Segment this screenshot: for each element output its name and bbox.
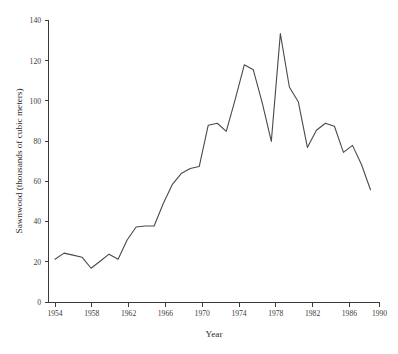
- y-tick-label: 20: [33, 258, 41, 267]
- figure-container: 140 120 100 80 60 40 20 0 1954 1958 1962…: [0, 0, 398, 354]
- x-tick-label: 1978: [268, 309, 283, 318]
- y-tick-label: 140: [30, 16, 42, 25]
- y-tick-label: 40: [33, 217, 41, 226]
- caption-strip: [0, 345, 398, 354]
- x-tick-label: 1974: [231, 309, 246, 318]
- x-tick-label: 1982: [305, 309, 320, 318]
- y-tick-label: 80: [33, 137, 41, 146]
- y-tick-label: 60: [33, 177, 41, 186]
- y-tick-label: 0: [37, 298, 41, 307]
- x-axis-title: Year: [206, 329, 223, 339]
- y-tick-label: 100: [30, 97, 42, 106]
- x-tick-label: 1970: [195, 309, 210, 318]
- y-axis-title: Sawnwood (thousands of cubic meters): [14, 89, 24, 234]
- y-tick-marks: [45, 21, 49, 303]
- x-tick-label: 1954: [47, 309, 62, 318]
- data-series-line: [55, 34, 370, 269]
- x-tick-label: 1958: [84, 309, 99, 318]
- line-chart: 140 120 100 80 60 40 20 0 1954 1958 1962…: [0, 0, 398, 354]
- x-tick-label: 1966: [158, 309, 173, 318]
- x-tick-label: 1986: [342, 309, 357, 318]
- y-tick-labels: 140 120 100 80 60 40 20 0: [30, 16, 42, 307]
- x-tick-label: 1990: [372, 309, 387, 318]
- x-tick-marks: [55, 303, 380, 307]
- x-tick-labels: 1954 1958 1962 1966 1970 1974 1978 1982 …: [47, 309, 387, 318]
- y-tick-label: 120: [30, 57, 42, 66]
- x-tick-label: 1962: [121, 309, 136, 318]
